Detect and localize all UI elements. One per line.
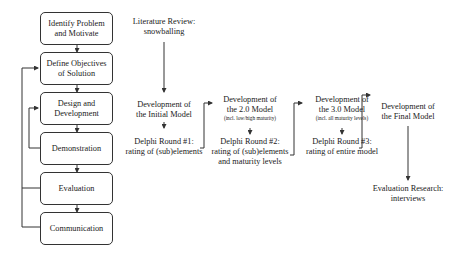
step-design-development: Design andDevelopment xyxy=(40,92,113,125)
delphi-round-1: Delphi Round #1:rating of (sub)elements xyxy=(119,137,209,157)
step-communication: Communication xyxy=(40,212,113,245)
evaluation-research: Evaluation Research:interviews xyxy=(363,184,453,204)
model-2: Development ofthe 2.0 Model(incl. low/hi… xyxy=(210,95,290,122)
delphi-round-3: Delphi Round #3:rating of entire model xyxy=(297,137,387,157)
step-define-objectives: Define Objectivesof Solution xyxy=(40,52,113,85)
final-model: Development ofthe Final Model xyxy=(368,102,448,122)
step-identify-problem: Identify Problemand Motivate xyxy=(40,12,113,45)
step-demonstration: Demonstration xyxy=(40,132,113,165)
initial-model: Development ofthe Initial Model xyxy=(124,100,204,120)
literature-review: Literature Review:snowballing xyxy=(124,17,204,37)
step-evaluation: Evaluation xyxy=(40,172,113,205)
delphi-round-2: Delphi Round #2:rating of (sub)elementsa… xyxy=(205,137,295,167)
